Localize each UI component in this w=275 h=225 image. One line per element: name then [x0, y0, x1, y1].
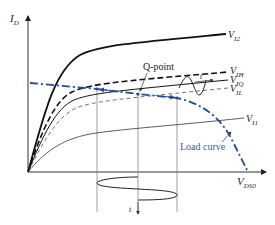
y-axis-label: ID: [9, 12, 19, 27]
x-axis-label: VDS0: [237, 175, 256, 190]
time-label-right: t: [200, 72, 203, 81]
q-point-label: Q-point: [143, 61, 174, 72]
load-curve: [30, 83, 248, 172]
projection-lines: [97, 88, 177, 212]
curve-vil: [28, 88, 228, 172]
load-curve-label: Load curve: [180, 141, 226, 152]
q-point-marker: [136, 92, 139, 95]
point-right-marker: [176, 97, 179, 100]
label-vi1: VI1: [246, 113, 258, 127]
time-label-bottom: t: [129, 205, 132, 214]
label-vi2: VI2: [228, 29, 240, 43]
point-left-marker: [96, 88, 99, 91]
mosfet-load-curve-diagram: ID VDS0 VI2 VIH VIQ VIL VI1 Q-point: [0, 0, 275, 225]
output-sine-wave: [97, 177, 177, 200]
